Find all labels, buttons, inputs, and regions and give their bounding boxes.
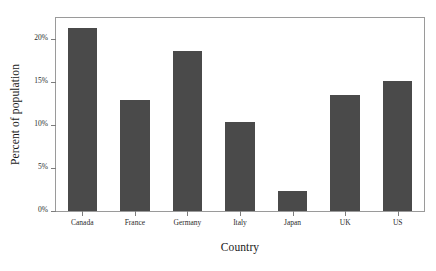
bar-series xyxy=(56,18,424,211)
x-axis-tick-label: US xyxy=(393,218,403,227)
x-axis-tick-label: Canada xyxy=(71,218,94,227)
bar-column xyxy=(330,18,359,211)
bar-italy xyxy=(225,122,254,211)
bar-uk xyxy=(330,95,359,211)
bar-germany xyxy=(173,51,202,211)
y-axis-title: Percent of population xyxy=(4,17,26,212)
x-axis-tick xyxy=(293,211,294,216)
y-axis-tick-label: 20% xyxy=(34,33,48,42)
bar-france xyxy=(120,100,149,211)
x-axis-title: Country xyxy=(55,241,425,253)
y-axis-tick-label: 0% xyxy=(38,205,48,214)
plot-area: 0%5%10%15%20%CanadaFranceGermanyItalyJap… xyxy=(55,17,425,212)
bar-column xyxy=(278,18,307,211)
y-axis-tick: 5% xyxy=(51,168,56,169)
x-axis-tick xyxy=(240,211,241,216)
x-axis-tick-label: France xyxy=(125,218,145,227)
bar-column xyxy=(173,18,202,211)
y-axis-tick: 10% xyxy=(51,125,56,126)
x-axis-tick xyxy=(398,211,399,216)
x-axis-tick xyxy=(135,211,136,216)
x-axis-tick xyxy=(187,211,188,216)
x-axis-tick xyxy=(345,211,346,216)
x-axis-tick-label: UK xyxy=(340,218,351,227)
bar-chart-figure: Percent of population 0%5%10%15%20%Canad… xyxy=(0,0,436,271)
bar-column xyxy=(120,18,149,211)
x-axis-tick-label: Germany xyxy=(173,218,201,227)
bar-japan xyxy=(278,191,307,211)
y-axis-tick-label: 5% xyxy=(38,162,48,171)
bar-column xyxy=(225,18,254,211)
y-axis-tick: 20% xyxy=(51,39,56,40)
bar-canada xyxy=(68,28,97,211)
y-axis-tick: 0% xyxy=(51,211,56,212)
x-axis-tick-label: Italy xyxy=(233,218,247,227)
y-axis-tick-label: 10% xyxy=(34,119,48,128)
bar-us xyxy=(383,81,412,211)
y-axis-tick: 15% xyxy=(51,82,56,83)
y-axis-tick-label: 15% xyxy=(34,76,48,85)
bar-column xyxy=(383,18,412,211)
x-axis-tick xyxy=(82,211,83,216)
x-axis-tick-label: Japan xyxy=(284,218,301,227)
bar-column xyxy=(68,18,97,211)
